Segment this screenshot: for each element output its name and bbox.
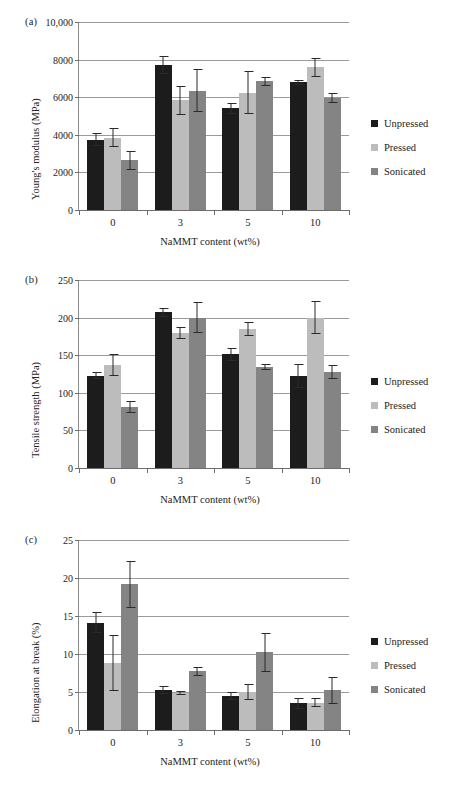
error-bar xyxy=(247,71,248,114)
error-bar xyxy=(247,684,248,699)
bar-wrapper xyxy=(324,22,341,210)
bar-unpressed[interactable] xyxy=(155,690,172,730)
error-bar xyxy=(298,698,299,709)
bar-wrapper xyxy=(239,22,256,210)
legend-item[interactable]: Unpressed xyxy=(371,118,428,129)
bar-wrapper xyxy=(324,280,341,468)
legend-a: UnpressedPressedSonicated xyxy=(371,118,428,190)
error-bar xyxy=(315,58,316,77)
bar-wrapper xyxy=(121,280,138,468)
bars xyxy=(147,280,215,468)
legend-item[interactable]: Sonicated xyxy=(371,166,428,177)
bars xyxy=(214,540,282,730)
y-tick-label: 4000 xyxy=(53,129,73,140)
error-bar xyxy=(197,667,198,676)
legend-label: Pressed xyxy=(384,400,416,411)
bar-unpressed[interactable] xyxy=(87,623,104,730)
bar-wrapper xyxy=(172,22,189,210)
bar-pressed[interactable] xyxy=(239,329,256,468)
y-tick-label: 10,000 xyxy=(46,17,74,28)
bar-wrapper xyxy=(290,540,307,730)
bar-unpressed[interactable] xyxy=(222,354,239,468)
y-tick-label: 0 xyxy=(68,205,73,216)
bar-wrapper xyxy=(189,22,206,210)
error-bar xyxy=(230,348,231,362)
bar-groups: 03510 xyxy=(79,22,349,210)
bars xyxy=(282,22,350,210)
bar-pressed[interactable] xyxy=(172,100,189,210)
bar-groups: 03510 xyxy=(79,540,349,730)
y-tick-label: 250 xyxy=(58,275,73,286)
bar-sonicated[interactable] xyxy=(324,98,341,210)
bars xyxy=(214,22,282,210)
error-bar xyxy=(95,612,96,633)
error-bar xyxy=(298,364,299,388)
bar-unpressed[interactable] xyxy=(222,108,239,210)
x-axis-label-a: NaMMT content (wt%) xyxy=(70,236,350,247)
bar-unpressed[interactable] xyxy=(222,696,239,730)
bar-sonicated[interactable] xyxy=(256,367,273,468)
error-bar xyxy=(264,633,265,673)
legend-label: Unpressed xyxy=(384,636,428,647)
bar-unpressed[interactable] xyxy=(290,82,307,210)
panel-label-c: (c) xyxy=(25,534,37,545)
bar-wrapper xyxy=(87,280,104,468)
legend-item[interactable]: Unpressed xyxy=(371,376,428,387)
bar-wrapper xyxy=(222,540,239,730)
y-tick-label: 15 xyxy=(63,611,73,622)
bar-group: 10 xyxy=(282,280,350,468)
legend-item[interactable]: Pressed xyxy=(371,142,428,153)
bar-unpressed[interactable] xyxy=(87,376,104,468)
bar-unpressed[interactable] xyxy=(155,65,172,210)
bar-pressed[interactable] xyxy=(104,365,121,468)
error-bar xyxy=(197,302,198,334)
legend-item[interactable]: Sonicated xyxy=(371,684,428,695)
bar-wrapper xyxy=(104,540,121,730)
error-bar xyxy=(332,677,333,704)
x-tick-mark xyxy=(147,468,148,473)
bar-pressed[interactable] xyxy=(172,693,189,730)
bar-wrapper xyxy=(155,22,172,210)
bar-sonicated[interactable] xyxy=(121,407,138,468)
legend-item[interactable]: Unpressed xyxy=(371,636,428,647)
bar-unpressed[interactable] xyxy=(290,376,307,468)
bar-wrapper xyxy=(307,280,324,468)
bar-pressed[interactable] xyxy=(172,333,189,468)
bar-sonicated[interactable] xyxy=(189,318,206,468)
legend-item[interactable]: Pressed xyxy=(371,400,428,411)
error-bar xyxy=(264,364,265,370)
bar-sonicated[interactable] xyxy=(324,372,341,468)
x-tick-mark xyxy=(282,210,283,215)
bars xyxy=(79,540,147,730)
bar-pressed[interactable] xyxy=(104,138,121,210)
legend-label: Sonicated xyxy=(384,424,425,435)
y-axis-label-c: Elongation at break (%) xyxy=(30,622,41,723)
bar-wrapper xyxy=(256,540,273,730)
bar-sonicated[interactable] xyxy=(256,81,273,210)
legend-swatch-icon xyxy=(371,662,378,669)
bar-group: 0 xyxy=(79,540,147,730)
bar-pressed[interactable] xyxy=(307,67,324,210)
bars xyxy=(214,280,282,468)
bar-sonicated[interactable] xyxy=(189,671,206,730)
legend-item[interactable]: Sonicated xyxy=(371,424,428,435)
panel-a-youngs-modulus: (a) Young's modulus (MPa) 02000400060008… xyxy=(0,0,473,262)
bar-wrapper xyxy=(256,280,273,468)
error-bar xyxy=(112,354,113,377)
panel-label-b: (b) xyxy=(25,274,38,285)
x-tick-mark xyxy=(147,210,148,215)
error-bar xyxy=(129,401,130,413)
legend-item[interactable]: Pressed xyxy=(371,660,428,671)
plot-area-a: 0200040006000800010,00003510 xyxy=(78,22,348,210)
bar-unpressed[interactable] xyxy=(87,140,104,211)
error-bar xyxy=(180,86,181,115)
plot-area-b: 05010015020025003510 xyxy=(78,280,348,468)
x-tick-mark xyxy=(349,468,350,473)
bar-group: 5 xyxy=(214,280,282,468)
x-tick-mark xyxy=(214,468,215,473)
panel-label-a: (a) xyxy=(25,16,37,27)
legend-c: UnpressedPressedSonicated xyxy=(371,636,428,708)
bar-unpressed[interactable] xyxy=(155,312,172,468)
bar-pressed[interactable] xyxy=(307,318,324,468)
bar-wrapper xyxy=(172,540,189,730)
